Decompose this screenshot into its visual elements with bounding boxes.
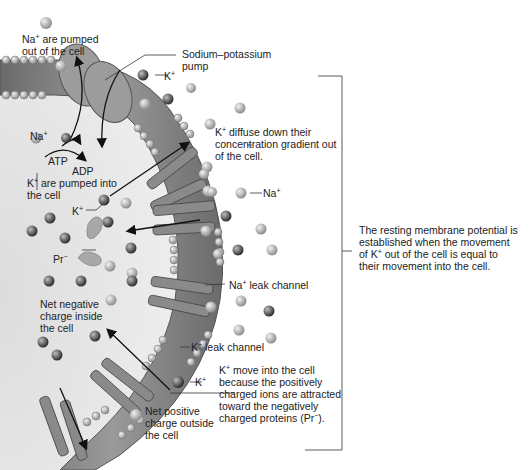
label-net-negative: Net negativecharge insidethe cell xyxy=(40,298,102,334)
label-protein: Pr− xyxy=(53,253,68,265)
label-sodium-potassium-pump: Sodium–potassiumpump xyxy=(182,48,271,72)
label-resting-potential: The resting membrane potential isestabli… xyxy=(359,224,518,272)
label-k-pumped-in: K+ are pumped into the cell xyxy=(27,177,117,201)
label-k-leak-channel: K+ leak channel xyxy=(191,341,264,353)
label-atp: ATP xyxy=(48,155,68,167)
label-k-bottom: K+ xyxy=(195,376,206,388)
label-na-leak-channel: Na+ leak channel xyxy=(229,279,308,291)
label-na-inside: Na+ xyxy=(30,130,48,142)
label-k-diffuse: K+ diffuse down their concentration grad… xyxy=(215,126,336,162)
label-k-move-into-cell: K+ move into the cell because the positi… xyxy=(219,364,341,424)
label-k-top: K+ xyxy=(164,70,175,82)
label-na-pumped-out: Na+ are pumped out of the cell xyxy=(22,33,99,57)
label-adp: ADP xyxy=(72,165,94,177)
diagram-canvas: Na+ are pumped out of the cell Sodium–po… xyxy=(0,0,532,470)
label-k-inside: K+ xyxy=(72,205,83,217)
label-na-outside: Na+ xyxy=(263,187,281,199)
label-net-positive: Net positivecharge outsidethe cell xyxy=(145,405,214,441)
